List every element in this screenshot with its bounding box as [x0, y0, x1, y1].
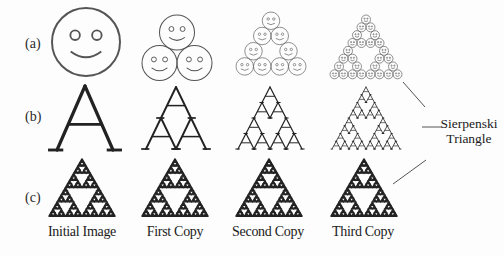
letter-a-third-copy [331, 87, 402, 149]
leader-line-row-a [403, 82, 425, 107]
caption-first-copy: First Copy [125, 224, 225, 240]
sierpinski-third-copy [331, 159, 397, 216]
caption-initial-image: Initial Image [32, 224, 132, 240]
annotation-line-1: Sierpenski [438, 116, 500, 131]
letter-a-first-copy [141, 87, 211, 149]
smiley-second-copy [236, 12, 306, 75]
sierpinski-initial [49, 159, 115, 216]
row-label-c: (c) [25, 190, 41, 206]
sierpinski-second-copy [236, 159, 302, 216]
caption-second-copy: Second Copy [218, 224, 318, 240]
letter-a-initial [48, 86, 122, 150]
row-label-b: (b) [25, 109, 41, 125]
annotation-line-2: Triangle [438, 131, 500, 146]
fractal-diagram [0, 0, 504, 256]
caption-third-copy: Third Copy [313, 224, 413, 240]
leader-line-row-c [393, 160, 426, 184]
smiley-initial [52, 8, 120, 76]
letter-a-second-copy [235, 87, 304, 149]
sierpinski-first-copy [142, 159, 208, 216]
figure-canvas: (a) (b) (c) Initial Image First Copy Sec… [0, 0, 504, 256]
smiley-first-copy [142, 15, 212, 80]
smiley-third-copy [330, 15, 402, 79]
row-label-a: (a) [25, 36, 41, 52]
sierpinski-triangle-label: Sierpenski Triangle [438, 116, 500, 146]
